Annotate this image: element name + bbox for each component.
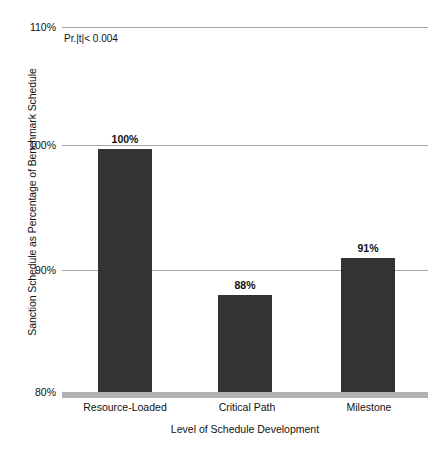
category-axis-line (62, 392, 428, 398)
plot-area: 110% 100% 90% 80% 100% 88% 91% Resource-… (62, 27, 428, 392)
bar-value-label-milestone: 91% (341, 243, 395, 254)
x-axis-title: Level of Schedule Development (62, 423, 428, 435)
category-label-milestone: Milestone (308, 401, 430, 413)
significance-annotation: Pr.|t|< 0.004 (64, 33, 118, 44)
bar-critical-path (218, 295, 272, 392)
bar-milestone (341, 258, 395, 392)
y-tick-label-110: 110% (30, 22, 56, 33)
bar-resource-loaded (98, 149, 152, 392)
bar-value-label-resource-loaded: 100% (98, 134, 152, 145)
y-tick-label-80: 80% (35, 387, 56, 398)
bars-layer (62, 27, 428, 392)
y-tick-label-100: 100% (29, 140, 56, 151)
category-label-critical-path: Critical Path (186, 401, 308, 413)
bar-value-label-critical-path: 88% (218, 280, 272, 291)
category-label-resource-loaded: Resource-Loaded (64, 401, 186, 413)
bar-chart: Sanction Schedule as Percentage of Bench… (0, 0, 445, 449)
y-axis-title: Sanction Schedule as Percentage of Bench… (26, 52, 38, 352)
y-tick-label-90: 90% (35, 265, 56, 276)
